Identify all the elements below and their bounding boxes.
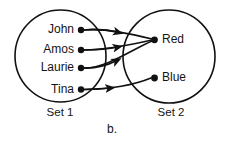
figure-caption: b.	[107, 122, 117, 136]
label-tina: Tina	[51, 82, 74, 96]
set-mapping-diagram: John Amos Laurie Tina Red Blue Set 1 Set…	[0, 0, 230, 148]
label-amos: Amos	[43, 42, 74, 56]
label-blue: Blue	[162, 70, 186, 84]
set1-label: Set 1	[47, 106, 74, 118]
set2-label: Set 2	[158, 106, 185, 118]
label-laurie: Laurie	[41, 60, 75, 74]
label-red: Red	[162, 32, 184, 46]
edge-john-red	[84, 30, 152, 39]
node-laurie	[78, 65, 84, 71]
label-john: John	[48, 22, 74, 36]
node-red	[151, 36, 158, 43]
edge-john-red-arrow	[84, 29, 119, 32]
edge-laurie-red	[84, 41, 152, 68]
set2-boundary	[123, 10, 215, 103]
node-john	[78, 27, 84, 33]
node-tina	[78, 86, 84, 92]
node-blue	[151, 75, 158, 82]
node-amos	[78, 47, 84, 53]
